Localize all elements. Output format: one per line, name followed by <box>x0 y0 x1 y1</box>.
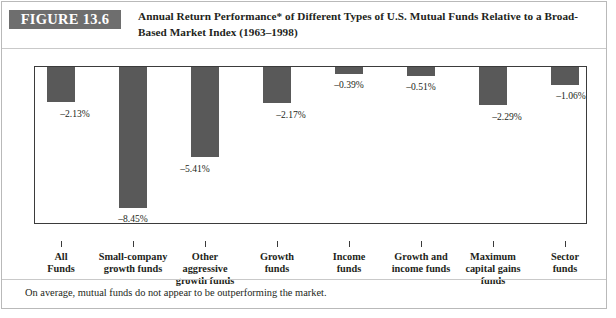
figure-card: FIGURE 13.6 Annual Return Performance* o… <box>1 1 607 309</box>
tick-growth-and-income <box>421 241 422 247</box>
figure-header: FIGURE 13.6 Annual Return Performance* o… <box>2 2 606 49</box>
figure-footnote: On average, mutual funds do not appear t… <box>25 286 585 300</box>
bar-value-growth-and-income: –0.51% <box>375 81 467 92</box>
tick-other-aggressive <box>205 241 206 247</box>
bar-value-sector-funds: –1.06% <box>525 90 616 101</box>
bar-growth-funds <box>263 67 291 103</box>
chart-region: –2.13% –8.45% –5.41% –2.17% –0.39% –0.51… <box>2 50 606 277</box>
footnote-divider <box>2 279 606 280</box>
bar-other-aggressive <box>191 67 219 157</box>
figure-number-badge: FIGURE 13.6 <box>9 10 121 29</box>
bar-all-funds <box>47 67 75 102</box>
bar-income-funds <box>335 67 363 74</box>
bar-value-all-funds: –2.13% <box>29 108 121 119</box>
header-divider <box>2 48 606 49</box>
bar-growth-and-income <box>407 67 435 76</box>
bar-value-other-aggressive: –5.41% <box>149 163 241 174</box>
tick-all-funds <box>61 241 62 247</box>
bar-maximum-capital-gains <box>479 67 507 105</box>
plot-frame: –2.13% –8.45% –5.41% –2.17% –0.39% –0.51… <box>34 66 587 224</box>
tick-income-funds <box>349 241 350 247</box>
bar-value-small-company-growth: –8.45% <box>87 213 179 224</box>
bar-small-company-growth <box>119 67 147 208</box>
bar-sector-funds <box>551 67 579 85</box>
tick-sector-funds <box>565 241 566 247</box>
figure-root: FIGURE 13.6 Annual Return Performance* o… <box>0 0 616 318</box>
bar-value-growth-funds: –2.17% <box>245 109 337 120</box>
tick-growth-funds <box>277 241 278 247</box>
category-label-sector-funds: Sector funds <box>520 251 610 275</box>
tick-small-company-growth <box>133 241 134 247</box>
tick-maximum-capital-gains <box>493 241 494 247</box>
bar-value-maximum-capital-gains: –2.29% <box>461 111 553 122</box>
figure-title: Annual Return Performance* of Different … <box>138 9 593 40</box>
